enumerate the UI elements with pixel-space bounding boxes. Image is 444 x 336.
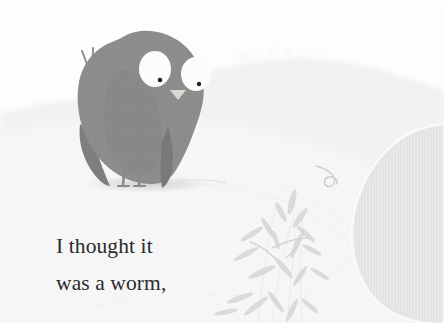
storybook-page: I thought it was a worm, [0,0,444,336]
caption-text: I thought it was a worm, [56,228,246,302]
bird-eye-right [181,57,211,91]
caption-line-2: was a worm, [56,265,246,302]
bird-eye-left [139,51,171,87]
caption-line-1: I thought it [56,228,246,265]
